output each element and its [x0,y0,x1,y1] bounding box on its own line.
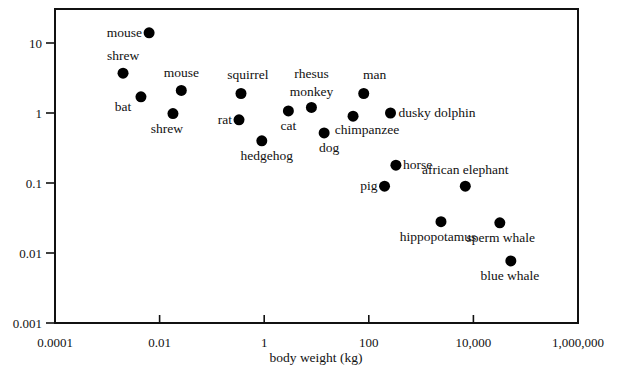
point-label: mouse [164,65,199,80]
point-label: mouse [107,25,142,40]
x-tick-label: 0.0001 [37,335,73,350]
data-point [385,108,396,119]
point-label: shrew [151,121,183,136]
x-tick-label: 10,000 [456,335,492,350]
x-axis-title: body weight (kg) [270,350,363,365]
point-label: bat [115,99,132,114]
data-point [460,181,471,192]
point-label: dusky dolphin [399,105,476,120]
data-point [319,127,330,138]
point-label: chimpanzee [335,122,399,137]
data-point [358,88,369,99]
y-axis: 1010.10.010.001 [13,36,55,331]
data-point [283,105,294,116]
point-label: hippopotamus [400,229,477,244]
data-point [435,216,446,227]
point-label: rat [218,112,232,127]
point-label: hedgehog [241,148,294,163]
point-label: pig [360,178,378,193]
point-label: cat [281,118,297,133]
data-point [390,160,401,171]
point-label: rhesus [294,66,329,81]
data-point [505,255,516,266]
x-tick-label: 0.01 [148,335,171,350]
y-tick-label: 1 [36,106,43,121]
data-points: mouseshrewmousebatshrewsquirrelratcatrhe… [107,25,539,283]
data-point [144,27,155,38]
data-point [379,181,390,192]
data-point [234,114,245,125]
data-point [235,88,246,99]
point-label: squirrel [227,67,268,82]
scatter-chart: 0.00010.01110010,0001,000,000 1010.10.01… [0,0,617,378]
y-tick-label: 0.01 [19,246,42,261]
data-point [135,91,146,102]
point-label: man [363,67,386,82]
x-tick-label: 1 [261,335,268,350]
point-label: sperm whale [467,230,536,245]
x-tick-label: 100 [359,335,379,350]
data-point [118,68,129,79]
point-label: monkey [290,84,334,99]
data-point [348,111,359,122]
data-point [494,217,505,228]
point-label: dog [319,140,340,155]
point-label: shrew [107,48,139,63]
y-tick-label: 0.1 [26,176,42,191]
data-point [306,102,317,113]
x-axis: 0.00010.01110010,0001,000,000 [37,315,604,350]
y-tick-label: 0.001 [13,316,42,331]
data-point [256,135,267,146]
data-point [176,85,187,96]
point-label: blue whale [480,268,539,283]
x-tick-label: 1,000,000 [552,335,604,350]
y-tick-label: 10 [29,36,42,51]
data-point [167,108,178,119]
point-label: african elephant [422,162,509,177]
